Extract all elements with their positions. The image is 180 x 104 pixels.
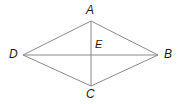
geometry-figure: A B C D E (0, 0, 180, 104)
segment-DA (23, 21, 91, 55)
rhombus-diagonals (23, 21, 158, 86)
vertex-label-c: C (86, 88, 95, 100)
vertex-label-a: A (86, 4, 94, 16)
vertex-label-b: B (164, 48, 172, 60)
segment-CD (23, 55, 91, 86)
vertex-label-e: E (95, 39, 102, 50)
vertex-label-d: D (9, 48, 18, 60)
segment-BC (91, 55, 158, 86)
